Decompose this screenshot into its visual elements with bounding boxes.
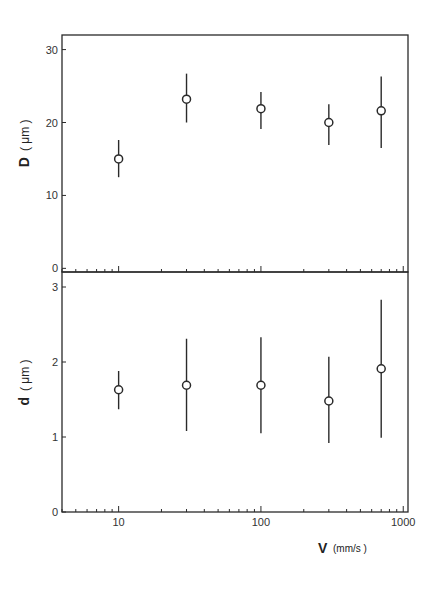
lower-data-point [257, 337, 265, 433]
upper-ylabel-main: D [16, 157, 32, 167]
open-circle-marker [257, 105, 265, 113]
upper-data-point [377, 77, 385, 148]
open-circle-marker [115, 386, 123, 394]
open-circle-marker [115, 155, 123, 163]
open-circle-marker [377, 365, 385, 373]
upper-data-point [183, 74, 191, 123]
upper-y-tick-label: 20 [46, 117, 58, 129]
lower-data-point [325, 357, 333, 443]
lower-plot-frame [62, 272, 408, 512]
x-tick-label: 10 [113, 516, 125, 528]
upper-y-tick-label: 30 [46, 44, 58, 56]
lower-panel: 0123101001000 [52, 272, 416, 528]
lower-y-tick-label: 1 [52, 431, 58, 443]
xlabel-main: V [318, 540, 328, 556]
open-circle-marker [325, 119, 333, 127]
lower-y-tick-label: 3 [52, 281, 58, 293]
upper-panel: 0102030 [46, 35, 408, 274]
upper-plot-frame [62, 35, 408, 272]
chart-figure: 0102030 0123101001000 D ( μm ) d ( μm ) … [0, 0, 437, 589]
lower-ylabel-main: d [16, 397, 32, 406]
upper-y-axis-title: D ( μm ) [16, 119, 32, 167]
open-circle-marker [183, 381, 191, 389]
x-tick-label: 100 [252, 516, 270, 528]
upper-data-point [325, 104, 333, 145]
upper-y-tick-label: 10 [46, 189, 58, 201]
upper-y-tick-label: 0 [52, 262, 58, 274]
lower-data-point [183, 339, 191, 431]
lower-y-tick-label: 0 [52, 506, 58, 518]
upper-data-point [115, 140, 123, 177]
open-circle-marker [257, 381, 265, 389]
x-axis-title: V (mm/s ) [318, 540, 367, 556]
upper-ylabel-unit: ( μm ) [18, 119, 32, 151]
open-circle-marker [183, 95, 191, 103]
lower-data-point [377, 300, 385, 438]
upper-data-point [257, 92, 265, 129]
x-tick-label: 1000 [391, 516, 415, 528]
lower-data-point [115, 371, 123, 409]
open-circle-marker [377, 107, 385, 115]
xlabel-unit: (mm/s ) [333, 543, 367, 554]
lower-ylabel-unit: ( μm ) [18, 359, 32, 391]
lower-y-axis-title: d ( μm ) [16, 359, 32, 405]
open-circle-marker [325, 397, 333, 405]
lower-y-tick-label: 2 [52, 356, 58, 368]
